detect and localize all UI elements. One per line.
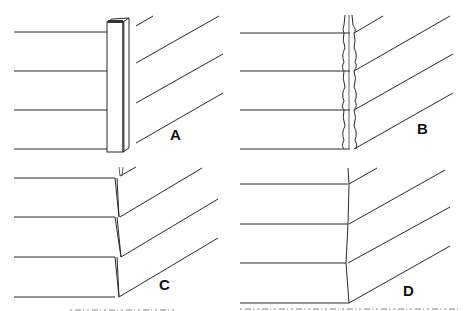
truncated-caption — [70, 309, 460, 310]
panel-label-d: D — [403, 282, 414, 299]
panel-b: B — [240, 15, 453, 149]
panel-label-a: A — [170, 126, 181, 143]
panel-d: D — [240, 168, 450, 303]
panel-label-b: B — [417, 120, 428, 137]
panel-c: C — [14, 167, 218, 297]
panel-a: A — [14, 16, 223, 152]
panel-label-c: C — [159, 276, 170, 293]
siding-corner-diagram: A B C — [0, 0, 467, 311]
